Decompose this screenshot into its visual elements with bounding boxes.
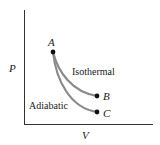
point-a-label: A — [47, 36, 55, 48]
point-a — [51, 50, 56, 55]
point-c — [95, 110, 100, 115]
y-axis-label: P — [8, 62, 16, 74]
point-b — [95, 94, 100, 99]
pv-diagram: P V A B C Isothermal Adiabatic — [0, 0, 160, 145]
pv-diagram-svg: P V A B C Isothermal Adiabatic — [0, 0, 160, 145]
adiabatic-label: Adiabatic — [29, 100, 68, 111]
isothermal-label: Isothermal — [72, 66, 115, 77]
x-axis-label: V — [82, 129, 90, 141]
point-c-label: C — [103, 107, 111, 119]
point-b-label: B — [103, 90, 110, 102]
